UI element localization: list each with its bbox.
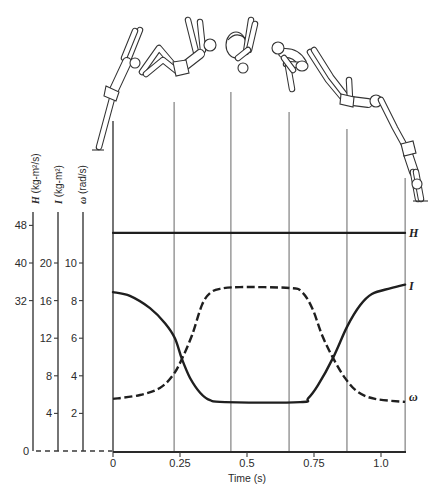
diver-head [204, 39, 216, 51]
diver-figure-entry [381, 100, 428, 201]
x-tick-label: 0.75 [303, 457, 324, 469]
y-tick-label: 10 [65, 257, 77, 269]
y-tick-label: 32 [15, 295, 27, 307]
curve-label-i: I [408, 279, 415, 293]
y-axis-title-h: H (kg-m²/s) [30, 153, 41, 205]
y-zero-label: 0 [23, 445, 29, 457]
curve-label-h: H [408, 226, 419, 240]
y-axis-symbol-h: H [30, 195, 41, 205]
y-axis-ticks: 32404848121620246810 [15, 219, 83, 419]
y-tick-label: 6 [71, 332, 77, 344]
x-axis-ticks: 00.250.50.751.0 [110, 452, 389, 469]
diver-head [130, 58, 140, 68]
y-tick-label: 8 [46, 370, 52, 382]
y-axis-symbol-i: I [53, 199, 64, 205]
y-axis-title-omega: ω (rad/s) [77, 165, 88, 204]
diver-limb-fill [314, 50, 345, 95]
diver-shorts [173, 60, 189, 76]
diver-figure-takeoff [92, 30, 140, 150]
y-tick-label: 20 [40, 257, 52, 269]
diver-limb-fill [99, 95, 113, 147]
diver-figure-tuck-inverted [226, 20, 255, 73]
diver-figure-tuck [272, 42, 308, 89]
diver-head [272, 42, 284, 54]
x-tick-label: 0.25 [169, 457, 190, 469]
dive-chart: H (kg-m²/s) I (kg-m²) ω (rad/s) 0 324048… [0, 0, 443, 493]
diver-limb-fill [352, 101, 368, 103]
y-tick-label: 40 [15, 257, 27, 269]
diver-shorts [401, 141, 416, 156]
x-tick-label: 1.0 [373, 457, 388, 469]
diver-head [238, 63, 248, 73]
y-axis-units-h: (kg-m²/s) [30, 153, 41, 193]
y-axis-symbol-omega: ω [77, 197, 88, 204]
diver-illustration [92, 20, 428, 201]
curve-label-omega: ω [409, 390, 418, 404]
y-axis-title-i: I (kg-m²) [53, 165, 64, 205]
x-tick-label: 0.5 [239, 457, 254, 469]
diver-figure-layout [142, 20, 216, 76]
diver-limb-fill [200, 22, 203, 50]
y-axis-units-i: (kg-m²) [53, 165, 64, 197]
diver-shorts [296, 61, 308, 71]
y-tick-label: 12 [40, 332, 52, 344]
y-tick-label: 8 [71, 295, 77, 307]
y-tick-label: 4 [46, 407, 52, 419]
phase-marker-lines [113, 92, 405, 452]
diver-limb-fill [381, 100, 406, 148]
y-tick-label: 2 [71, 407, 77, 419]
y-axis-units-omega: (rad/s) [77, 165, 88, 194]
y-tick-label: 16 [40, 295, 52, 307]
y-tick-label: 48 [15, 219, 27, 231]
diver-figure-opening [310, 50, 382, 107]
x-tick-label: 0 [110, 457, 116, 469]
x-axis-title: Time (s) [228, 472, 266, 484]
curve-moment-of-inertia-i [113, 285, 405, 403]
y-tick-label: 4 [71, 370, 77, 382]
diver-head [412, 179, 422, 189]
